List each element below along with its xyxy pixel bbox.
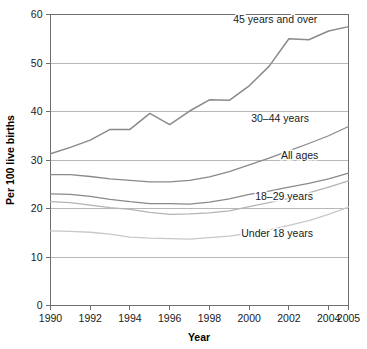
y-tick-label-0: 0 — [37, 299, 43, 311]
y-tick-label-40: 40 — [31, 105, 43, 117]
x-axis-ticks — [51, 306, 349, 311]
x-tick-label-1990: 1990 — [39, 312, 63, 324]
y-tick-label-50: 50 — [31, 57, 43, 69]
x-tick-label-1996: 1996 — [158, 312, 182, 324]
y-axis-tick-labels: 0102030405060 — [31, 8, 43, 311]
line-chart-figure: 199019921994199619982000200220042005 010… — [0, 0, 367, 349]
x-axis-title: Year — [188, 331, 210, 343]
x-tick-label-1992: 1992 — [79, 312, 103, 324]
x-tick-label-2005: 2005 — [337, 312, 361, 324]
series-label-all-ages: All ages — [281, 149, 318, 161]
series-label-18-29-years: 18–29 years — [255, 190, 313, 202]
chart-container: 199019921994199619982000200220042005 010… — [0, 0, 367, 349]
y-axis-ticks — [46, 15, 51, 306]
y-axis-title: Per 100 live births — [4, 115, 16, 205]
series-label-under-18-years: Under 18 years — [241, 227, 313, 239]
x-tick-label-1998: 1998 — [198, 312, 222, 324]
data-series-group — [51, 27, 349, 239]
series-label-45-years-and-over: 45 years and over — [233, 13, 318, 25]
y-tick-label-30: 30 — [31, 154, 43, 166]
x-axis-tick-labels: 199019921994199619982000200220042005 — [39, 312, 361, 324]
series-labels-group: 45 years and over45 years and over30–44 … — [233, 13, 318, 238]
series-line-0 — [51, 27, 349, 154]
y-tick-label-20: 20 — [31, 202, 43, 214]
x-tick-label-1994: 1994 — [118, 312, 142, 324]
x-tick-label-2002: 2002 — [277, 312, 301, 324]
series-label-30-44-years: 30–44 years — [251, 112, 309, 124]
y-tick-label-10: 10 — [31, 251, 43, 263]
y-tick-label-60: 60 — [31, 8, 43, 20]
x-tick-label-2000: 2000 — [237, 312, 261, 324]
